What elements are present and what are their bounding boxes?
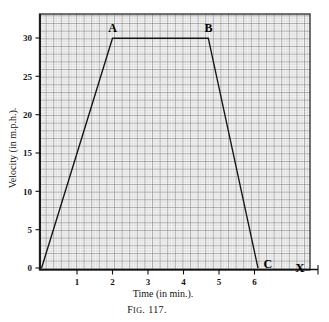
x-axis-end-marker: X — [295, 260, 305, 275]
y-tick-label-5: 5 — [28, 225, 33, 235]
x-axis-title-group: Time (in min.). — [133, 288, 194, 300]
x-tick-label-2: 2 — [110, 277, 115, 287]
x-tick-label-1: 1 — [75, 277, 80, 287]
y-tick-label-0: 0 — [28, 263, 33, 273]
caption-smallcaps: IG — [133, 306, 142, 315]
velocity-time-chart: 1 2 3 4 5 6 0 5 10 15 20 25 30 A B C X T… — [0, 0, 329, 322]
y-tick-label-25: 25 — [23, 72, 33, 82]
point-label-b: B — [204, 21, 212, 35]
y-tick-label-30: 30 — [23, 33, 33, 43]
y-tick-label-20: 20 — [23, 110, 33, 120]
y-axis-title-group: Velocity (in m.p.h.). — [7, 108, 19, 189]
x-tick-label-3: 3 — [146, 277, 151, 287]
x-axis-title: Time (in min.). — [133, 288, 194, 300]
point-label-a: A — [108, 21, 117, 35]
x-tick-label-6: 6 — [252, 277, 257, 287]
caption-rest: . 117. — [142, 304, 167, 315]
figure-caption: FIG. 117. — [127, 304, 167, 315]
point-label-c: C — [264, 257, 273, 271]
y-axis-title: Velocity (in m.p.h.). — [7, 108, 19, 189]
y-tick-label-15: 15 — [23, 148, 33, 158]
figure-container: 1 2 3 4 5 6 0 5 10 15 20 25 30 A B C X T… — [0, 0, 329, 322]
x-tick-label-5: 5 — [217, 277, 222, 287]
y-tick-label-10: 10 — [23, 187, 33, 197]
x-tick-label-4: 4 — [181, 277, 186, 287]
figure-caption-group: FIG. 117. — [127, 304, 167, 315]
